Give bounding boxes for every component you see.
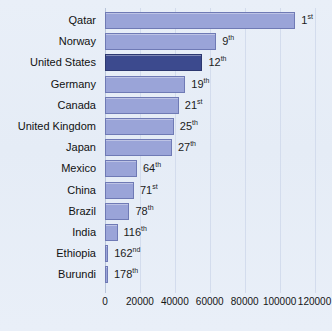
rank-suffix: nd xyxy=(133,247,141,254)
bar[interactable] xyxy=(105,224,118,241)
rank-suffix: th xyxy=(141,225,147,232)
category-label: China xyxy=(0,180,100,201)
category-label: Qatar xyxy=(0,10,100,31)
x-tick-label: 60000 xyxy=(196,295,224,309)
rank-suffix: st xyxy=(152,183,157,190)
x-tick-label: 120000 xyxy=(298,295,331,309)
bar[interactable] xyxy=(105,12,295,29)
category-axis-labels: QatarNorwayUnited StatesGermanyCanadaUni… xyxy=(0,8,100,293)
bar-chart: QatarNorwayUnited StatesGermanyCanadaUni… xyxy=(0,0,332,331)
rank-suffix: th xyxy=(228,35,234,42)
bar-rank-label: 21st xyxy=(185,100,203,111)
bar-rank-label: 64th xyxy=(143,163,161,174)
category-label: Germany xyxy=(0,74,100,95)
category-label: India xyxy=(0,222,100,243)
bar-rank-label: 116th xyxy=(124,227,147,238)
rank-suffix: th xyxy=(155,162,161,169)
bar-rank-label: 27th xyxy=(178,142,196,153)
x-axis-tick-labels: 020000400006000080000100000120000 xyxy=(105,295,332,315)
category-label: Burundi xyxy=(0,264,100,285)
bar[interactable] xyxy=(105,118,174,135)
bar-rank-label: 19th xyxy=(191,79,209,90)
bar-row[interactable]: 25th xyxy=(105,116,198,137)
bar-row[interactable]: 162nd xyxy=(105,243,140,264)
bar-row[interactable]: 178th xyxy=(105,264,138,285)
rank-suffix: th xyxy=(221,56,227,63)
rank-suffix: th xyxy=(192,119,198,126)
category-label: Canada xyxy=(0,95,100,116)
bar-rank-label: 162nd xyxy=(114,248,140,259)
bar[interactable] xyxy=(105,54,202,71)
bar-row[interactable]: 12th xyxy=(105,52,227,73)
x-tick-label: 0 xyxy=(102,295,108,309)
bar[interactable] xyxy=(105,203,129,220)
category-label: Mexico xyxy=(0,158,100,179)
bar-row[interactable]: 71st xyxy=(105,180,158,201)
rank-suffix: st xyxy=(307,13,312,20)
x-tick-label: 40000 xyxy=(161,295,189,309)
bar-rank-label: 78th xyxy=(135,206,153,217)
bar-rank-label: 71st xyxy=(140,185,158,196)
bar-rank-label: 178th xyxy=(114,269,138,280)
bar-rank-label: 9th xyxy=(222,36,234,47)
bar-row[interactable]: 1st xyxy=(105,10,313,31)
rank-suffix: st xyxy=(197,98,202,105)
rank-suffix: th xyxy=(132,268,138,275)
rank-suffix: th xyxy=(148,204,154,211)
bar[interactable] xyxy=(105,182,134,199)
bar-row[interactable]: 21st xyxy=(105,95,203,116)
bar[interactable] xyxy=(105,76,185,93)
category-label: Norway xyxy=(0,31,100,52)
bar-rows: 1st9th12th19th21st25th27th64th71st78th11… xyxy=(105,8,332,293)
bar-row[interactable]: 78th xyxy=(105,201,154,222)
rank-suffix: th xyxy=(204,77,210,84)
x-tick-label: 100000 xyxy=(263,295,296,309)
plot-area: 1st9th12th19th21st25th27th64th71st78th11… xyxy=(105,8,332,293)
bar[interactable] xyxy=(105,97,179,114)
bar-rank-label: 12th xyxy=(208,57,226,68)
category-label: Brazil xyxy=(0,201,100,222)
bar[interactable] xyxy=(105,139,172,156)
category-label: Ethiopia xyxy=(0,243,100,264)
category-label: Japan xyxy=(0,137,100,158)
bar-rank-label: 1st xyxy=(301,15,313,26)
bar-row[interactable]: 9th xyxy=(105,31,234,52)
bar-row[interactable]: 19th xyxy=(105,74,209,95)
bar[interactable] xyxy=(105,160,137,177)
category-label: United Kingdom xyxy=(0,116,100,137)
bar-rank-label: 25th xyxy=(180,121,198,132)
category-label: United States xyxy=(0,52,100,73)
x-tick-label: 80000 xyxy=(231,295,259,309)
bar-row[interactable]: 27th xyxy=(105,137,196,158)
bar-row[interactable]: 116th xyxy=(105,222,147,243)
rank-suffix: th xyxy=(190,141,196,148)
bar[interactable] xyxy=(105,266,108,283)
bar[interactable] xyxy=(105,33,216,50)
x-tick-label: 20000 xyxy=(126,295,154,309)
bar-row[interactable]: 64th xyxy=(105,158,161,179)
bar[interactable] xyxy=(105,245,108,262)
